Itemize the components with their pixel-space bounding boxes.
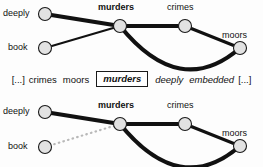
sentence-line: [...]crimesmoorsmurdersdeeplyembedded[..…: [0, 70, 263, 88]
bottom-graph-edges: [45, 112, 240, 167]
sentence-token: deeply: [152, 74, 186, 85]
node-label-moors: moors: [222, 128, 247, 138]
sentence-token: [...]: [11, 74, 26, 85]
node-label-deeply: deeply: [3, 8, 30, 18]
node-label-book: book: [8, 42, 28, 52]
node-label-murders: murders: [98, 100, 134, 110]
node-moors[interactable]: [234, 140, 247, 153]
node-moors[interactable]: [234, 42, 247, 55]
node-deeply[interactable]: [39, 106, 52, 119]
top-graph-edges: [45, 14, 240, 69]
edge-book-murders: [45, 124, 120, 147]
node-label-murders: murders: [98, 2, 134, 12]
node-crimes[interactable]: [179, 118, 192, 131]
node-label-crimes: crimes: [167, 100, 194, 110]
node-book[interactable]: [39, 141, 52, 154]
sentence-token: crimes: [26, 74, 60, 85]
edge-deeply-murders: [45, 112, 120, 124]
node-deeply[interactable]: [39, 8, 52, 21]
sentence-token: moors: [60, 74, 92, 85]
node-crimes[interactable]: [179, 20, 192, 33]
node-label-deeply: deeply: [3, 106, 30, 116]
node-book[interactable]: [39, 42, 52, 55]
edge-book-murders: [45, 26, 120, 48]
figure-root: deeplybookmurderscrimesmoorsdeeplybookmu…: [0, 0, 263, 167]
node-label-crimes: crimes: [167, 2, 194, 12]
node-label-moors: moors: [222, 30, 247, 40]
node-murders[interactable]: [114, 20, 127, 33]
sentence-token: [...]: [237, 74, 252, 85]
focus-token-murders[interactable]: murders: [96, 71, 148, 87]
sentence-token: embedded: [186, 74, 237, 85]
node-murders[interactable]: [114, 118, 127, 131]
edge-deeply-murders: [45, 14, 120, 26]
node-label-book: book: [8, 141, 28, 151]
